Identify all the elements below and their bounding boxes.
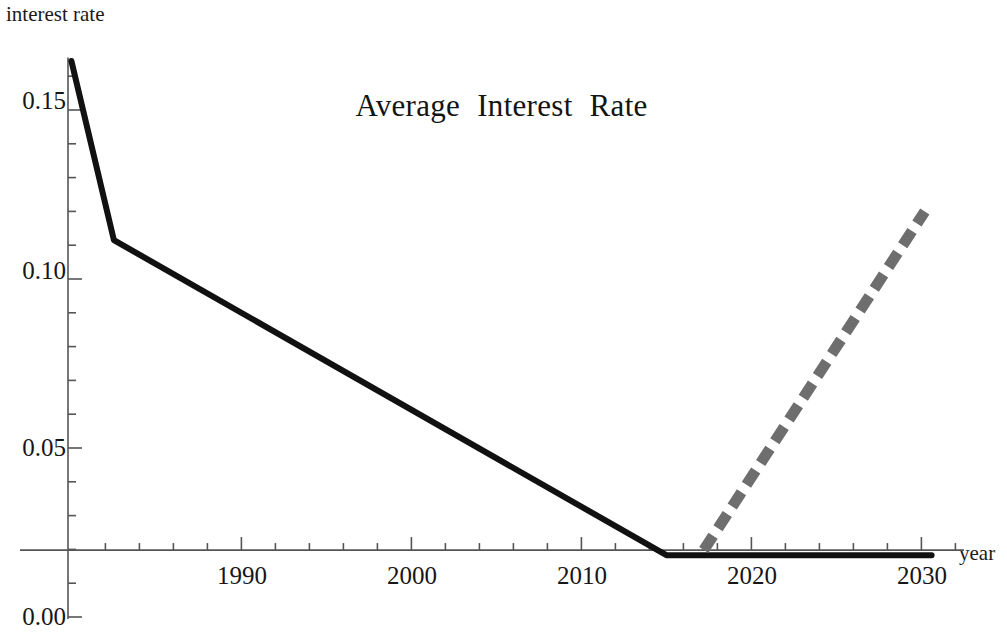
series-historical (71, 61, 931, 555)
plot-area (0, 0, 1007, 632)
chart-canvas: interest rate year Average Interest Rate… (0, 0, 1007, 632)
series-projection (704, 211, 925, 550)
data-series (71, 61, 931, 555)
tick-marks (68, 76, 955, 617)
axis-lines (20, 58, 964, 619)
